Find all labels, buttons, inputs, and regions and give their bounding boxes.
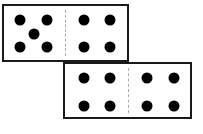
pip-dot (79, 42, 90, 53)
top-domino (2, 4, 129, 62)
pip-dot (169, 101, 180, 112)
pip-dot (79, 101, 90, 112)
pip-dot (79, 15, 90, 26)
pip-dot (169, 73, 180, 84)
pip-dot (42, 42, 53, 53)
pip-dot (29, 29, 40, 40)
pip-dot (105, 42, 116, 53)
pip-dot (15, 42, 26, 53)
pip-dot (42, 15, 53, 26)
pip-dot (142, 73, 153, 84)
pip-dot (79, 73, 90, 84)
pip-dot (105, 101, 116, 112)
domino-divider (65, 10, 66, 56)
pip-dot (142, 101, 153, 112)
bottom-domino (63, 62, 192, 119)
domino-divider (128, 68, 129, 113)
pip-dot (105, 73, 116, 84)
pip-dot (15, 15, 26, 26)
pip-dot (105, 15, 116, 26)
